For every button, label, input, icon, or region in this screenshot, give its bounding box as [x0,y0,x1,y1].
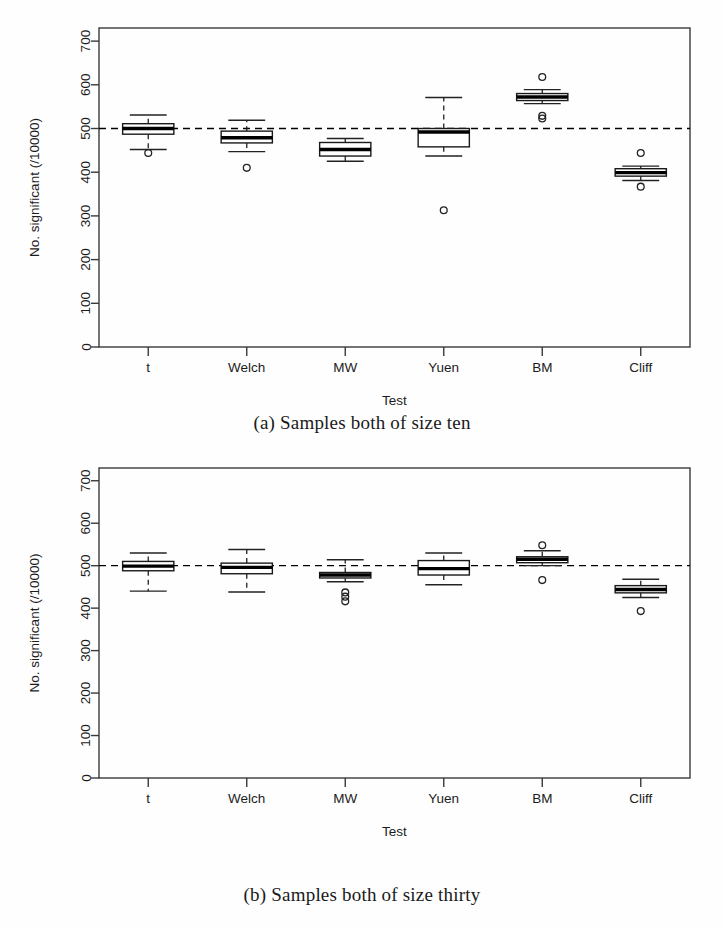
x-axis-tick-label: BM [532,791,552,806]
x-axis-title: Test [382,824,407,839]
outlier-point [440,207,447,214]
x-axis-tick-label: MW [333,791,357,806]
y-axis-tick-label: 500 [79,117,94,140]
boxplot-box-t [123,115,174,156]
boxplot-box-MW [320,560,371,605]
y-axis-tick-label: 200 [79,682,94,705]
y-axis-tick-label: 700 [79,30,94,53]
panel-a-caption: (a) Samples both of size ten [0,412,724,434]
x-axis-tick-label: Welch [228,791,265,806]
boxplot-box-Yuen [418,97,469,213]
plot-frame [99,28,690,347]
boxplot-chart-b: 0100200300400500600700No. significant (/… [0,442,724,882]
boxplot-box-BM [517,542,568,584]
boxplot-panel-b: 0100200300400500600700No. significant (/… [0,442,724,929]
y-axis-title: No. significant (/10000) [27,118,42,257]
boxplot-box-Cliff [615,579,666,614]
y-axis-tick-label: 0 [79,343,94,351]
boxplot-box-Cliff [615,150,666,190]
x-axis-tick-label: Yuen [428,360,459,375]
y-axis-tick-label: 700 [79,469,94,492]
outlier-point [539,577,546,584]
y-axis-tick-label: 300 [79,639,94,662]
outlier-point [637,608,644,615]
x-axis-tick-label: Cliff [629,360,652,375]
figure-page: 0100200300400500600700No. significant (/… [0,0,724,929]
y-axis-tick-label: 0 [79,774,94,782]
y-axis-tick-label: 300 [79,205,94,228]
boxplot-box-MW [320,139,371,162]
x-axis-tick-label: t [146,791,150,806]
boxplot-chart-a: 0100200300400500600700No. significant (/… [0,0,724,412]
outlier-point [539,542,546,549]
y-axis-tick-label: 500 [79,554,94,577]
outlier-point [637,183,644,190]
boxplot-box-BM [517,74,568,122]
plot-frame [99,468,690,778]
x-axis-tick-label: t [146,360,150,375]
y-axis-tick-label: 100 [79,724,94,747]
outlier-point [145,150,152,157]
y-axis-tick-label: 400 [79,161,94,184]
y-axis-tick-label: 400 [79,597,94,620]
outlier-point [243,164,250,171]
y-axis-tick-label: 600 [79,512,94,535]
outlier-point [342,598,349,605]
y-axis-tick-label: 100 [79,292,94,315]
boxplot-box-Welch [221,550,272,592]
x-axis-tick-label: MW [333,360,357,375]
x-axis-title: Test [382,393,407,408]
x-axis-tick-label: Cliff [629,791,652,806]
boxplot-box-Welch [221,120,272,171]
y-axis-tick-label: 200 [79,248,94,271]
outlier-point [637,150,644,157]
outlier-point [539,74,546,81]
x-axis-tick-label: Yuen [428,791,459,806]
boxplot-box-t [123,553,174,591]
x-axis-tick-label: BM [532,360,552,375]
boxplot-panel-a: 0100200300400500600700No. significant (/… [0,0,724,465]
x-axis-tick-label: Welch [228,360,265,375]
panel-b-caption: (b) Samples both of size thirty [0,884,724,906]
y-axis-tick-label: 600 [79,74,94,97]
y-axis-title: No. significant (/10000) [27,554,42,693]
boxplot-box-Yuen [418,553,469,585]
